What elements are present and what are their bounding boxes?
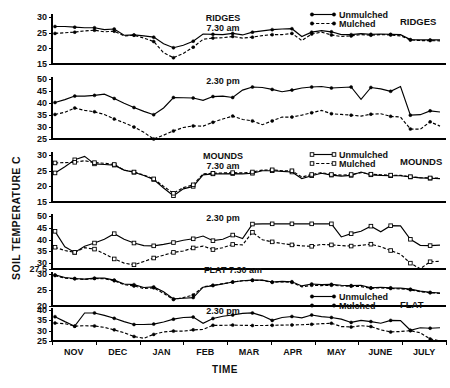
x-axis-tick-labels: NOVDECJANFEBMARAPRMAYJUNEJULY xyxy=(52,347,450,359)
data-point-marker xyxy=(172,96,175,99)
data-point-marker xyxy=(211,37,214,40)
data-point-marker xyxy=(330,173,334,177)
data-point-marker xyxy=(389,33,392,36)
data-point-marker xyxy=(211,95,214,98)
data-point-marker xyxy=(310,111,313,114)
legend-flat: UnmulchedMulched xyxy=(310,292,388,310)
data-point-marker xyxy=(53,161,57,165)
legend-item-mulched: Mulched xyxy=(310,159,388,168)
data-point-marker xyxy=(290,116,293,119)
data-point-marker xyxy=(310,33,313,36)
data-point-marker xyxy=(172,56,175,59)
y-tick-label: 20 xyxy=(37,44,47,53)
data-point-marker xyxy=(231,96,234,99)
data-point-marker xyxy=(211,171,215,175)
data-point-marker xyxy=(271,319,274,322)
x-tick-mark xyxy=(140,340,141,345)
data-point-marker xyxy=(409,237,413,241)
legend-swatch-unmulched-icon xyxy=(310,292,336,301)
data-point-marker xyxy=(271,88,274,91)
data-point-marker xyxy=(73,95,76,98)
data-point-marker xyxy=(113,117,116,120)
data-point-marker xyxy=(93,94,96,97)
panel-ridges_pm: 504540353025 xyxy=(52,77,446,139)
data-point-marker xyxy=(290,315,293,318)
data-point-marker xyxy=(172,298,175,301)
y-tick-label: 25 xyxy=(37,337,47,346)
data-point-marker xyxy=(152,36,155,39)
legend-label-mulched: Mulched xyxy=(339,159,376,169)
y-tick-label: 20 xyxy=(37,182,47,191)
panel-title-flat_am: FLAT 7.30 am xyxy=(168,265,298,275)
data-point-marker xyxy=(350,285,353,288)
data-point-marker xyxy=(211,121,214,124)
data-point-marker xyxy=(132,241,136,245)
data-point-marker xyxy=(93,247,97,251)
data-point-marker xyxy=(231,281,234,284)
data-point-marker xyxy=(330,222,334,226)
data-point-marker xyxy=(369,172,373,176)
data-point-marker xyxy=(231,324,234,327)
y-tick-label: 25 xyxy=(37,135,47,144)
data-point-marker xyxy=(73,107,76,110)
data-point-marker xyxy=(211,284,214,287)
data-point-marker xyxy=(152,286,155,289)
x-tick-mark xyxy=(446,340,447,345)
y-tick-label: 40 xyxy=(37,306,47,315)
data-point-marker xyxy=(429,109,432,112)
data-point-marker xyxy=(271,119,274,122)
legend-label-mulched: Mulched xyxy=(339,301,376,311)
data-point-marker xyxy=(350,114,353,117)
data-point-marker xyxy=(330,30,333,33)
data-point-marker xyxy=(93,241,97,245)
data-point-marker xyxy=(349,173,353,177)
y-tick-label: 45 xyxy=(37,87,47,96)
x-tick-mark xyxy=(96,340,97,345)
data-point-marker xyxy=(251,119,254,122)
data-point-marker xyxy=(132,34,135,37)
data-point-marker xyxy=(211,239,215,243)
data-point-marker xyxy=(54,113,57,116)
data-point-marker xyxy=(369,242,373,246)
data-point-marker xyxy=(54,101,57,104)
data-point-marker xyxy=(73,26,76,29)
data-point-marker xyxy=(330,243,334,247)
data-point-marker xyxy=(251,279,254,282)
data-point-marker xyxy=(251,324,254,327)
y-tick-label: 35 xyxy=(37,316,47,325)
data-point-marker xyxy=(113,97,116,100)
data-point-marker xyxy=(172,191,176,195)
data-point-marker xyxy=(231,115,234,118)
data-point-marker xyxy=(290,89,293,92)
data-point-marker xyxy=(113,317,116,320)
data-point-marker xyxy=(330,284,333,287)
y-tick-label: 40 xyxy=(37,99,47,108)
data-point-marker xyxy=(152,138,155,141)
data-point-marker xyxy=(132,106,135,109)
data-point-marker xyxy=(93,110,96,113)
legend-ridges: UnmulchedMulched xyxy=(310,10,388,28)
data-point-marker xyxy=(310,323,313,326)
soil-temperature-figure: SOIL TEMPERATURE C 302520155045403530253… xyxy=(0,0,450,388)
data-point-marker xyxy=(369,113,372,116)
data-point-marker xyxy=(191,246,195,250)
data-point-marker xyxy=(369,325,372,328)
data-point-marker xyxy=(54,274,57,277)
data-point-marker xyxy=(290,32,293,35)
y-tick-label: 25 xyxy=(37,28,47,37)
legend-swatch-mulched-icon xyxy=(310,19,336,28)
data-point-marker xyxy=(152,256,156,260)
y-axis-title: SOIL TEMPERATURE C xyxy=(0,0,10,96)
data-point-marker xyxy=(113,30,116,33)
x-axis-title: TIME xyxy=(0,364,450,375)
data-point-marker xyxy=(330,86,333,89)
data-point-marker xyxy=(350,34,353,37)
y-tick-label: 30 xyxy=(37,151,47,160)
data-point-marker xyxy=(132,323,135,326)
x-tick-mark xyxy=(227,340,228,345)
data-point-marker xyxy=(409,329,412,332)
data-point-marker xyxy=(429,39,432,42)
data-point-marker xyxy=(270,240,274,244)
data-point-marker xyxy=(231,243,235,247)
x-tick-label-nov: NOV xyxy=(64,347,84,357)
